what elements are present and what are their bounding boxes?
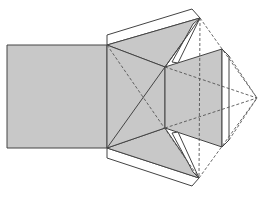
dashed-flap-bottom: [229, 98, 257, 140]
right-flap: [222, 49, 229, 147]
left-square-face: [7, 45, 107, 148]
geometry-net-diagram: [0, 0, 263, 199]
dashed-flap-top: [229, 56, 257, 98]
